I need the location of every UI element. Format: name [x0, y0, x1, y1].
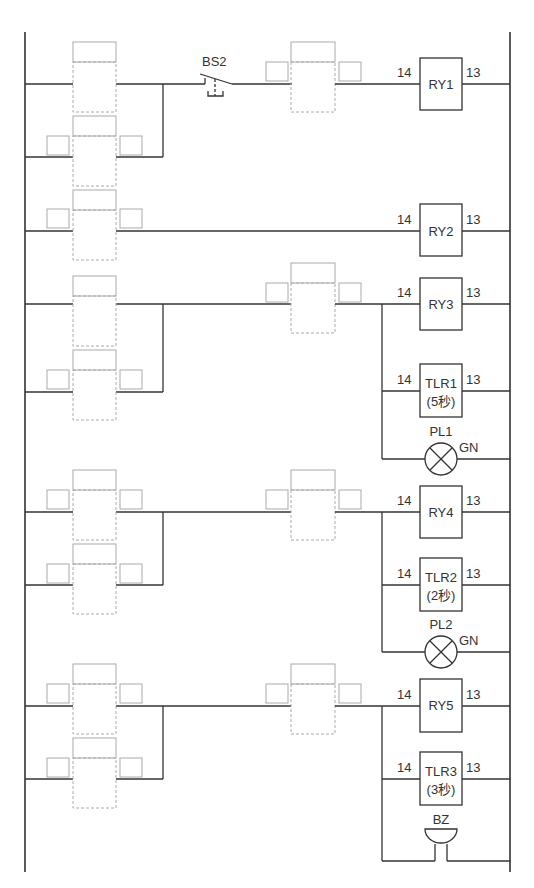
terminal-13: 13 — [466, 212, 480, 227]
coil-label: RY3 — [428, 297, 453, 312]
ladder-diagram: BS2 RY1 14 13 RY2 14 13 — [0, 0, 534, 888]
coil-label: RY5 — [428, 698, 453, 713]
blank-contact-area[interactable] — [73, 210, 116, 260]
terminal-14: 14 — [397, 493, 411, 508]
blank-contact-area[interactable] — [73, 62, 116, 112]
terminal-14: 14 — [397, 566, 411, 581]
blank-input[interactable] — [291, 42, 335, 62]
timer-label: TLR2 — [425, 570, 457, 585]
blank-input[interactable] — [120, 684, 142, 703]
timer-label: TLR3 — [425, 764, 457, 779]
timer-duration: (2秒) — [427, 588, 456, 603]
pilot-lamp-icon — [425, 443, 457, 475]
blank-input[interactable] — [266, 490, 288, 509]
terminal-14: 14 — [397, 65, 411, 80]
blank-input[interactable] — [73, 664, 116, 684]
blank-input[interactable] — [47, 209, 69, 228]
blank-input[interactable] — [339, 684, 361, 703]
blank-input[interactable] — [120, 758, 142, 777]
terminal-14: 14 — [397, 212, 411, 227]
blank-input[interactable] — [73, 544, 116, 564]
terminal-14: 14 — [397, 760, 411, 775]
blank-contact-area[interactable] — [73, 758, 116, 808]
blank-input[interactable] — [120, 564, 142, 583]
blank-input[interactable] — [120, 370, 142, 389]
blank-input[interactable] — [47, 758, 69, 777]
blank-input[interactable] — [73, 738, 116, 758]
terminal-14: 14 — [397, 285, 411, 300]
blank-input[interactable] — [73, 190, 116, 210]
lamp-label: PL2 — [429, 617, 452, 632]
blank-input[interactable] — [266, 283, 288, 302]
lamp-label: PL1 — [429, 424, 452, 439]
lamp-color: GN — [459, 633, 479, 648]
blank-contact-area[interactable] — [73, 564, 116, 614]
coil-label: RY4 — [428, 505, 453, 520]
timer-duration: (5秒) — [427, 394, 456, 409]
blank-input[interactable] — [73, 276, 116, 296]
blank-contact-area[interactable] — [73, 370, 116, 420]
blank-input[interactable] — [73, 42, 116, 62]
terminal-13: 13 — [466, 285, 480, 300]
blank-contact-area[interactable] — [73, 684, 116, 734]
bs2-label: BS2 — [202, 54, 227, 69]
rung-ry1: BS2 RY1 14 13 — [25, 42, 510, 186]
blank-input[interactable] — [73, 350, 116, 370]
blank-input[interactable] — [47, 136, 69, 155]
terminal-13: 13 — [466, 687, 480, 702]
blank-contact-area[interactable] — [291, 490, 335, 540]
blank-input[interactable] — [120, 209, 142, 228]
blank-contact-area[interactable] — [73, 136, 116, 186]
blank-input[interactable] — [339, 62, 361, 81]
blank-contact-area[interactable] — [291, 283, 335, 333]
lamp-color: GN — [459, 440, 479, 455]
rung-ry3: RY3 14 13 TLR1 (5秒) 14 13 PL1 GN — [25, 263, 510, 475]
blank-input[interactable] — [339, 283, 361, 302]
rung-ry4: RY4 14 13 TLR2 (2秒) 14 13 PL2 GN — [25, 470, 510, 668]
blank-input[interactable] — [73, 116, 116, 136]
blank-input[interactable] — [266, 62, 288, 81]
coil-label: RY2 — [428, 224, 453, 239]
buzzer-label: BZ — [433, 812, 450, 827]
terminal-13: 13 — [466, 493, 480, 508]
blank-contact-area[interactable] — [73, 490, 116, 540]
rung-ry2: RY2 14 13 — [25, 190, 510, 260]
terminal-13: 13 — [466, 372, 480, 387]
blank-contact-area[interactable] — [291, 62, 335, 112]
blank-input[interactable] — [291, 664, 335, 684]
coil-label: RY1 — [428, 77, 453, 92]
timer-label: TLR1 — [425, 376, 457, 391]
timer-duration: (3秒) — [427, 782, 456, 797]
blank-input[interactable] — [339, 490, 361, 509]
blank-contact-area[interactable] — [73, 296, 116, 346]
terminal-14: 14 — [397, 687, 411, 702]
blank-input[interactable] — [120, 490, 142, 509]
blank-input[interactable] — [47, 490, 69, 509]
blank-input[interactable] — [47, 564, 69, 583]
blank-input[interactable] — [291, 470, 335, 490]
blank-input[interactable] — [47, 370, 69, 389]
blank-input[interactable] — [291, 263, 335, 283]
blank-input[interactable] — [266, 684, 288, 703]
terminal-14: 14 — [397, 372, 411, 387]
terminal-13: 13 — [466, 760, 480, 775]
rung-ry5: RY5 14 13 TLR3 (3秒) 14 13 BZ — [25, 664, 510, 861]
buzzer-icon — [425, 829, 457, 861]
blank-input[interactable] — [47, 684, 69, 703]
blank-contact-area[interactable] — [291, 684, 335, 734]
blank-input[interactable] — [120, 136, 142, 155]
terminal-13: 13 — [466, 65, 480, 80]
terminal-13: 13 — [466, 566, 480, 581]
pilot-lamp-icon — [425, 636, 457, 668]
blank-input[interactable] — [73, 470, 116, 490]
